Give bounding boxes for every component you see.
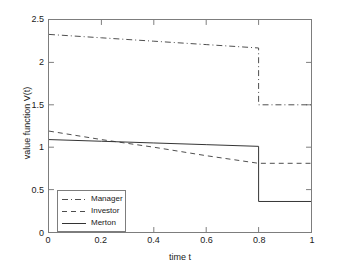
y-tick-label: 0: [39, 229, 44, 238]
y-tick-label: 2.5: [31, 15, 44, 24]
legend-item-merton[interactable]: Merton: [58, 217, 125, 229]
series-line-manager: [49, 34, 311, 104]
x-tick-label: 0: [45, 236, 50, 245]
dashed-line-icon: [61, 207, 87, 216]
x-tick-label: 0.4: [147, 236, 160, 245]
legend-label: Merton: [91, 219, 116, 227]
data-series-layer: [49, 34, 311, 201]
solid-line-icon: [61, 219, 87, 228]
y-axis-label: value function V(t): [22, 43, 32, 203]
y-tick-label: 1.5: [31, 101, 44, 110]
x-tick-label: 0.2: [95, 236, 108, 245]
x-axis-label: time t: [48, 252, 312, 262]
legend-item-investor[interactable]: Investor: [58, 205, 125, 217]
legend-label: Manager: [91, 195, 123, 203]
figure: 0 0.5 1 1.5 2 2.5 0 0.2 0.4 0.6 0.8 1 ti…: [0, 0, 340, 273]
legend[interactable]: Manager Investor Merton: [57, 190, 126, 232]
x-tick-label: 1: [309, 236, 314, 245]
series-line-investor: [49, 131, 311, 163]
dash-dot-line-icon: [61, 195, 87, 204]
x-tick-label: 0.8: [253, 236, 266, 245]
y-tick-label: 0.5: [31, 186, 44, 195]
legend-item-manager[interactable]: Manager: [58, 193, 125, 205]
y-tick-label: 2: [39, 58, 44, 67]
y-tick-label: 1: [39, 143, 44, 152]
x-tick-label: 0.6: [200, 236, 213, 245]
legend-label: Investor: [91, 207, 119, 215]
